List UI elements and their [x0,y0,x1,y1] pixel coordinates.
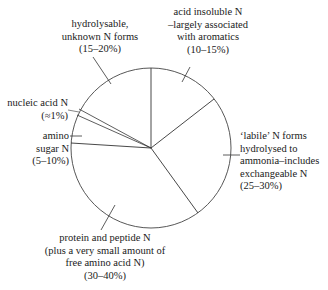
label-line: with aromatics [158,31,258,44]
label-line: protein and peptide N [30,232,180,245]
label-line: free amino acid N) [30,257,180,270]
leader-hydrolysable [93,57,111,84]
label-line: ammonia–includes [240,155,328,168]
label-line: nucleic acid N [0,97,68,110]
label-line: exchangeable N [240,168,328,181]
label-line: (plus a very small amount of [30,245,180,258]
label-protein: protein and peptide N (plus a very small… [30,232,180,282]
label-line: unknown N forms [50,31,150,44]
label-line: (≈1%) [0,110,68,123]
leader-nucleic [68,110,79,112]
label-labile: ‘labile’ N forms hydrolysed to ammonia–i… [240,130,328,193]
label-hydrolysable: hydrolysable, unknown N forms (15–20%) [50,18,150,56]
label-line: (30–40%) [30,270,180,283]
label-line: hydrolysable, [50,18,150,31]
label-acid-insoluble: acid insoluble N –largely associated wit… [158,6,258,56]
label-line: (10–15%) [158,44,258,57]
label-line: amino [0,130,69,143]
label-line: acid insoluble N [158,6,258,19]
label-nucleic: nucleic acid N (≈1%) [0,97,68,122]
label-line: (5–10%) [0,155,69,168]
label-line: –largely associated [158,19,258,32]
label-amino-sugar: amino sugar N (5–10%) [0,130,69,168]
label-line: (15–20%) [50,43,150,56]
label-line: ‘labile’ N forms [240,130,328,143]
label-line: sugar N [0,143,69,156]
label-line: hydrolysed to [240,143,328,156]
label-line: (25–30%) [240,180,328,193]
